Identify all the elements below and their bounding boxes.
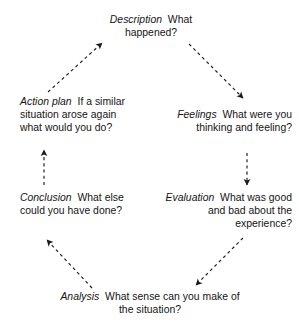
node-conclusion: ConclusionWhat else could you have done? <box>20 191 140 217</box>
node-feelings: FeelingsWhat were you thinking and feeli… <box>168 108 292 134</box>
arrow-analysis-to-conclusion <box>47 240 92 288</box>
arrow-actionplan-to-description <box>48 43 102 92</box>
node-analysis-term: Analysis <box>60 291 105 302</box>
node-action-plan-term: Action plan <box>20 96 77 107</box>
arrow-evaluation-to-analysis <box>196 238 243 285</box>
node-analysis: AnalysisWhat sense can you make of the s… <box>55 290 245 316</box>
cycle-arrows <box>0 0 299 330</box>
node-description: DescriptionWhat happened? <box>96 13 206 39</box>
arrow-description-to-feelings <box>189 44 243 98</box>
node-conclusion-term: Conclusion <box>20 192 77 203</box>
node-description-term: Description <box>110 14 168 25</box>
gibbs-reflective-cycle-diagram: DescriptionWhat happened? FeelingsWhat w… <box>0 0 299 330</box>
node-evaluation-prompt: What was good and bad about the experien… <box>208 192 292 229</box>
node-evaluation-term: Evaluation <box>166 192 221 203</box>
node-action-plan: Action planIf a similar situation arose … <box>20 95 136 135</box>
node-feelings-term: Feelings <box>177 109 222 120</box>
node-evaluation: EvaluationWhat was good and bad about th… <box>162 191 292 231</box>
node-analysis-prompt: What sense can you make of the situation… <box>105 291 240 315</box>
